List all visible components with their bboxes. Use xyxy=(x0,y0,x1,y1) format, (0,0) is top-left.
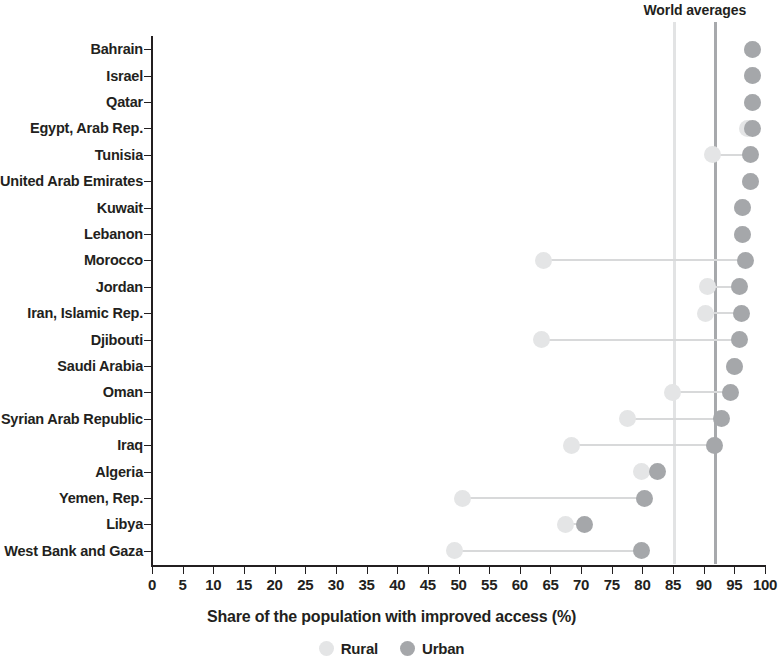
y-axis-label: Egypt, Arab Rep. xyxy=(0,120,143,136)
x-axis-tick xyxy=(734,567,735,574)
x-axis-tick xyxy=(581,567,582,574)
x-axis-tick xyxy=(704,567,705,574)
y-axis-label: Yemen, Rep. xyxy=(0,490,143,506)
urban-data-point xyxy=(744,67,761,84)
x-axis-tick xyxy=(244,567,245,574)
urban-world-average-line-extension xyxy=(714,22,717,36)
y-axis-label: Tunisia xyxy=(0,147,143,163)
y-axis-tick xyxy=(144,366,151,367)
rural-urban-connector xyxy=(572,444,715,446)
urban-data-point xyxy=(742,173,759,190)
urban-data-point xyxy=(733,305,750,322)
y-axis-label: Algeria xyxy=(0,464,143,480)
x-axis-label: 70 xyxy=(573,576,589,593)
x-axis-tick xyxy=(152,567,153,574)
y-axis-label: West Bank and Gaza xyxy=(0,543,143,559)
x-axis xyxy=(151,565,766,567)
x-axis-label: 90 xyxy=(696,576,712,593)
x-axis-label: 15 xyxy=(236,576,252,593)
rural-data-point xyxy=(557,516,574,533)
rural-data-point xyxy=(664,384,681,401)
rural-urban-connector xyxy=(455,550,641,552)
urban-data-point xyxy=(636,490,653,507)
y-axis-label: United Arab Emirates xyxy=(0,173,143,189)
y-axis-label: Morocco xyxy=(0,252,143,268)
y-axis-tick xyxy=(144,498,151,499)
rural-data-point xyxy=(533,331,550,348)
legend-swatch-urban-icon xyxy=(400,641,415,656)
x-axis-tick xyxy=(397,567,398,574)
urban-data-point xyxy=(726,358,743,375)
x-axis-tick xyxy=(612,567,613,574)
y-axis-tick xyxy=(144,472,151,473)
x-axis-label: 35 xyxy=(359,576,375,593)
y-axis-label: Oman xyxy=(0,384,143,400)
y-axis-label: Libya xyxy=(0,516,143,532)
x-axis-label: 100 xyxy=(753,576,777,593)
urban-data-point xyxy=(744,120,761,137)
rural-urban-connector xyxy=(463,497,645,499)
legend-swatch-rural-icon xyxy=(319,641,334,656)
x-axis-tick xyxy=(765,567,766,574)
y-axis-label: Saudi Arabia xyxy=(0,358,143,374)
y-axis-tick xyxy=(144,524,151,525)
x-axis-label: 30 xyxy=(328,576,344,593)
urban-data-point xyxy=(744,94,761,111)
x-axis-label: 55 xyxy=(481,576,497,593)
x-axis-label: 85 xyxy=(665,576,681,593)
y-axis-label: Iraq xyxy=(0,437,143,453)
rural-world-average-line xyxy=(673,36,676,564)
rural-data-point xyxy=(619,410,636,427)
rural-data-point xyxy=(446,542,463,559)
y-axis-tick xyxy=(144,340,151,341)
world-averages-annotation: World averages xyxy=(643,2,746,18)
x-axis-label: 75 xyxy=(604,576,620,593)
x-axis-tick xyxy=(459,567,460,574)
y-axis-label: Syrian Arab Republic xyxy=(0,411,143,427)
x-axis-tick xyxy=(275,567,276,574)
y-axis xyxy=(151,36,153,566)
x-axis-tick xyxy=(428,567,429,574)
x-axis-label: 10 xyxy=(205,576,221,593)
y-axis-tick xyxy=(144,102,151,103)
y-axis-tick xyxy=(144,392,151,393)
urban-data-point xyxy=(706,437,723,454)
urban-data-point xyxy=(713,410,730,427)
urban-data-point xyxy=(731,331,748,348)
rural-data-point xyxy=(633,463,650,480)
urban-data-point xyxy=(734,226,751,243)
y-axis-label: Qatar xyxy=(0,94,143,110)
y-axis-tick xyxy=(144,445,151,446)
y-axis-tick xyxy=(144,234,151,235)
urban-world-average-line xyxy=(714,36,717,564)
y-axis-tick xyxy=(144,287,151,288)
plot-area xyxy=(152,36,765,564)
y-axis-label: Djibouti xyxy=(0,332,143,348)
x-axis-label: 0 xyxy=(148,576,156,593)
dumbbell-chart: World averages BahrainIsraelQatarEgypt, … xyxy=(0,0,783,667)
y-axis-label: Jordan xyxy=(0,279,143,295)
x-axis-label: 20 xyxy=(267,576,283,593)
urban-data-point xyxy=(742,146,759,163)
x-axis-label: 95 xyxy=(726,576,742,593)
rural-data-point xyxy=(454,490,471,507)
y-axis-label: Kuwait xyxy=(0,200,143,216)
rural-data-point xyxy=(697,305,714,322)
legend-item-rural: Rural xyxy=(319,640,378,657)
x-axis-tick xyxy=(305,567,306,574)
legend-label: Rural xyxy=(341,640,378,657)
x-axis-label: 65 xyxy=(542,576,558,593)
y-axis-tick xyxy=(144,128,151,129)
y-axis-tick xyxy=(144,208,151,209)
x-axis-label: 60 xyxy=(512,576,528,593)
y-axis-tick xyxy=(144,313,151,314)
rural-urban-connector xyxy=(627,418,721,420)
x-axis-tick xyxy=(336,567,337,574)
urban-data-point xyxy=(744,41,761,58)
x-axis-tick xyxy=(489,567,490,574)
y-axis-tick xyxy=(144,419,151,420)
y-axis-tick xyxy=(144,260,151,261)
rural-urban-connector xyxy=(543,259,746,261)
rural-urban-connector xyxy=(541,339,739,341)
x-axis-label: 5 xyxy=(179,576,187,593)
